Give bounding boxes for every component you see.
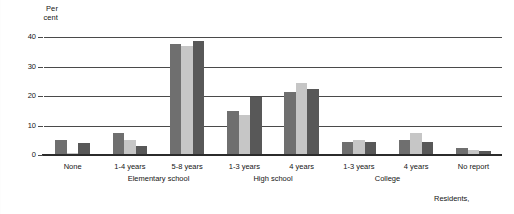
y-tick-dash-40 bbox=[38, 37, 43, 38]
x-group-label-college: College bbox=[328, 174, 448, 183]
bar-1-3-years-series-1 bbox=[227, 111, 239, 155]
bar-1-3-years-series-2 bbox=[353, 140, 365, 155]
x-axis-baseline bbox=[42, 154, 502, 156]
y-tick-label-20: 20 bbox=[14, 92, 36, 100]
bar-5-8-years-series-1 bbox=[170, 44, 182, 155]
y-tick-dash-30 bbox=[38, 67, 43, 68]
plot-area bbox=[44, 37, 502, 155]
gridline-30 bbox=[44, 67, 502, 68]
bar-5-8-years-series-2 bbox=[181, 46, 193, 155]
y-tick-dash-20 bbox=[38, 96, 43, 97]
bar-4-years-series-3 bbox=[307, 89, 319, 155]
x-group-label-high-school: High school bbox=[213, 174, 333, 183]
bar-1-4-years-series-2 bbox=[124, 140, 136, 155]
bar-4-years-series-3 bbox=[422, 142, 434, 155]
footnote-residents: Residents, bbox=[434, 194, 469, 203]
bar-1-3-years-series-3 bbox=[365, 142, 377, 155]
x-group-label-elementary-school: Elementary school bbox=[99, 174, 219, 183]
gridline-10 bbox=[44, 126, 502, 127]
bar-1-3-years-series-1 bbox=[342, 142, 354, 155]
bar-1-3-years-series-3 bbox=[250, 97, 262, 155]
bar-none-series-1 bbox=[55, 140, 67, 155]
bar-4-years-series-1 bbox=[284, 92, 296, 155]
bar-1-3-years-series-2 bbox=[239, 115, 251, 155]
bar-chart: Per cent 010203040 None1-4 years5-8 year… bbox=[0, 0, 514, 214]
y-axis-title: Per cent bbox=[24, 4, 58, 22]
bar-4-years-series-2 bbox=[296, 83, 308, 155]
y-tick-label-10: 10 bbox=[14, 122, 36, 130]
x-category-label-7: No report bbox=[433, 162, 513, 171]
y-axis-title-line-1: Per bbox=[24, 4, 58, 13]
bar-4-years-series-1 bbox=[399, 140, 411, 155]
bar-4-years-series-2 bbox=[410, 133, 422, 155]
y-tick-dash-10 bbox=[38, 126, 43, 127]
bar-1-4-years-series-1 bbox=[113, 133, 125, 155]
gridline-20 bbox=[44, 96, 502, 97]
y-tick-label-30: 30 bbox=[14, 63, 36, 71]
gridline-40 bbox=[44, 37, 502, 38]
y-axis-title-line-2: cent bbox=[24, 13, 58, 22]
y-tick-label-40: 40 bbox=[14, 33, 36, 41]
y-tick-label-0: 0 bbox=[14, 151, 36, 159]
y-tick-dash-0 bbox=[38, 155, 43, 156]
bar-5-8-years-series-3 bbox=[193, 41, 205, 155]
